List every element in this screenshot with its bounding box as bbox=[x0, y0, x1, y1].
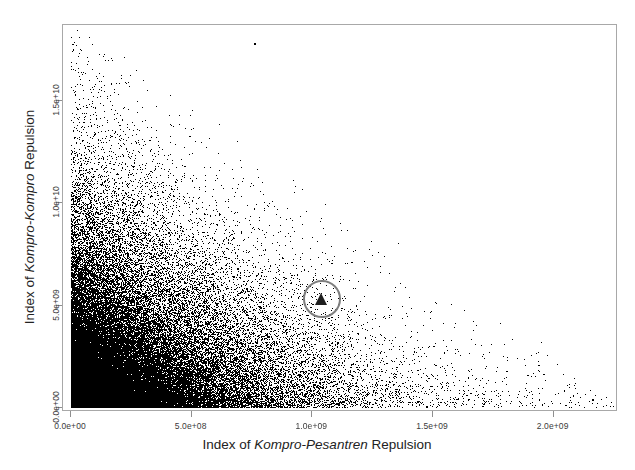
plot-area bbox=[62, 24, 617, 411]
x-axis-title: Index of Kompro-Pesantren Repulsion bbox=[203, 437, 432, 452]
x-axis-tick-label: 1.5e+09 bbox=[416, 421, 448, 431]
x-axis-tick bbox=[70, 411, 71, 417]
y-axis-tick-label: 0.0e+00 bbox=[51, 391, 61, 423]
x-axis-title-emphasis: Kompro-Pesantren bbox=[254, 437, 367, 452]
x-axis-title-suffix: Repulsion bbox=[368, 437, 432, 452]
x-axis-title-prefix: Index of bbox=[203, 437, 255, 452]
x-axis-tick-label: 2.0e+09 bbox=[537, 421, 569, 431]
x-axis-tick bbox=[432, 411, 433, 417]
y-axis-tick-label: 1.0e+10 bbox=[51, 186, 61, 218]
y-axis-title: Index of Kompro-Kompro Repulsion bbox=[22, 110, 37, 325]
x-axis-tick bbox=[311, 411, 312, 417]
x-axis-tick-label: 5.0e+08 bbox=[175, 421, 207, 431]
x-axis-tick bbox=[553, 411, 554, 417]
x-axis-tick-label: 1.0e+09 bbox=[295, 421, 327, 431]
y-axis-tick-label: 5.0e+09 bbox=[51, 289, 61, 321]
x-axis-tick bbox=[191, 411, 192, 417]
y-axis-title-prefix: Index of bbox=[22, 273, 37, 325]
y-axis-tick-label: 1.5e+10 bbox=[51, 84, 61, 116]
y-axis-title-suffix: Repulsion bbox=[22, 110, 37, 174]
y-axis-title-emphasis: Kompro-Kompro bbox=[22, 173, 37, 272]
scatter-points-layer bbox=[63, 25, 617, 411]
scatter-plot-figure: Index of Kompro-Pesantren Repulsion Inde… bbox=[0, 0, 635, 470]
